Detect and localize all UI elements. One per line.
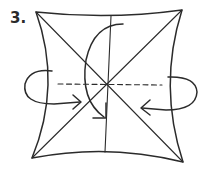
curved-fold-arrow [85,24,123,117]
left-fold-arrow [25,71,80,104]
origami-diagram [0,0,205,172]
arrowhead-down-icon [93,103,106,118]
horizontal-valley-fold [58,84,162,85]
diagonal-crease-2 [32,10,182,158]
diagonal-crease-1 [36,12,183,162]
right-fold-arrow [142,77,197,110]
arrowhead-left-icon [141,100,150,115]
